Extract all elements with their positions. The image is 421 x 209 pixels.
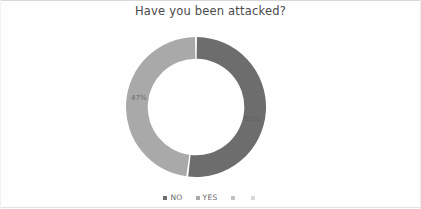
chart-legend: NOYES xyxy=(0,193,421,202)
page-edge-top xyxy=(0,0,421,1)
legend-item[interactable]: YES xyxy=(196,193,218,202)
legend-swatch-icon xyxy=(196,196,200,200)
doughnut-svg xyxy=(126,37,266,177)
chart-title: Have you been attacked? xyxy=(0,4,421,18)
slice-no[interactable] xyxy=(188,37,266,177)
legend-label: YES xyxy=(203,193,218,202)
slice-label-yes: 47% xyxy=(131,94,147,102)
chart-page: Have you been attacked? 47% 52% NOYES xyxy=(0,0,421,209)
legend-swatch-icon xyxy=(163,196,167,200)
slice-yes[interactable] xyxy=(126,37,195,176)
legend-swatch-icon xyxy=(231,196,235,200)
doughnut-chart: 47% 52% xyxy=(126,37,266,177)
slice-label-no: 52% xyxy=(244,115,260,123)
legend-swatch-icon xyxy=(251,196,255,200)
page-edge-left xyxy=(0,0,1,209)
page-edge-bottom xyxy=(0,207,421,208)
legend-label: NO xyxy=(170,193,182,202)
legend-item[interactable] xyxy=(251,196,258,200)
legend-item[interactable]: NO xyxy=(163,193,182,202)
legend-item[interactable] xyxy=(231,196,238,200)
